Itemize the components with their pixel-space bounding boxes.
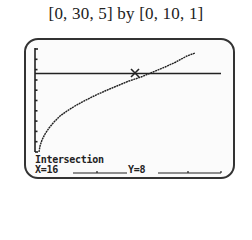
y-value-readout: Y=8 [128,165,145,175]
increasing-root-curve [39,53,195,152]
readout-underlines [73,171,221,173]
y-axis [35,48,38,152]
x-value-readout: X=16 [35,165,58,175]
